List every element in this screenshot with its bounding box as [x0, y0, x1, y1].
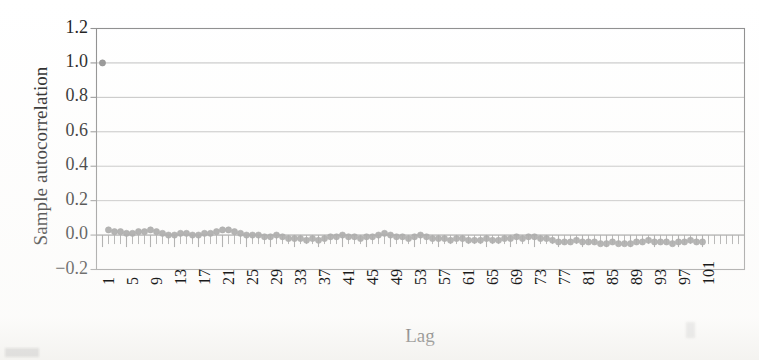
x-axis-title: Lag — [96, 325, 744, 347]
data-point — [603, 241, 609, 247]
x-axis-tick-label: 69 — [508, 269, 526, 285]
x-axis-tick-label: 33 — [292, 269, 310, 285]
data-point — [531, 234, 537, 240]
data-point — [345, 234, 351, 240]
data-point — [333, 234, 339, 240]
data-point — [201, 230, 207, 236]
data-point — [681, 239, 687, 245]
x-axis-tick-label: 73 — [532, 269, 550, 285]
data-point — [225, 227, 231, 233]
data-point — [309, 235, 315, 241]
data-point — [573, 237, 579, 243]
x-axis-tick-label: 41 — [340, 269, 358, 285]
data-point — [303, 237, 309, 243]
data-point — [213, 229, 219, 235]
data-point — [495, 237, 501, 243]
data-point — [615, 241, 621, 247]
data-point — [249, 232, 255, 238]
data-point — [645, 237, 651, 243]
data-point — [411, 234, 417, 240]
data-point — [255, 232, 261, 238]
x-axis-tick-label: 97 — [676, 269, 694, 285]
data-point — [153, 229, 159, 235]
data-point — [501, 235, 507, 241]
data-point — [375, 232, 381, 238]
data-point — [99, 60, 105, 66]
data-point — [207, 230, 213, 236]
x-axis-tick-label: 57 — [436, 269, 454, 285]
data-point — [195, 232, 201, 238]
data-point — [561, 239, 567, 245]
data-point — [627, 241, 633, 247]
data-point — [525, 234, 531, 240]
x-axis-tick-label: 17 — [196, 269, 214, 285]
data-point — [675, 239, 681, 245]
y-axis-tick-label: 0.0 — [66, 223, 89, 244]
y-axis-tick-label: 0.2 — [66, 189, 89, 210]
data-point — [435, 235, 441, 241]
x-axis-tick-label: 5 — [124, 277, 142, 285]
x-axis-tick-label: 21 — [220, 269, 238, 285]
data-point — [633, 239, 639, 245]
data-point — [609, 239, 615, 245]
data-point — [507, 235, 513, 241]
data-point — [387, 232, 393, 238]
data-point — [405, 235, 411, 241]
y-axis-tick-label: 0.8 — [66, 85, 89, 106]
data-point — [261, 234, 267, 240]
scan-artifact-left — [5, 348, 39, 357]
data-point — [459, 235, 465, 241]
data-point — [579, 239, 585, 245]
data-point — [657, 239, 663, 245]
x-axis-tick-label: 25 — [244, 269, 262, 285]
x-axis-tick-label: 49 — [388, 269, 406, 285]
x-axis-tick-label: 65 — [484, 269, 502, 285]
data-point — [519, 235, 525, 241]
data-point — [189, 232, 195, 238]
data-point — [315, 237, 321, 243]
x-axis-tick-label: 29 — [268, 269, 286, 285]
data-point — [159, 230, 165, 236]
data-point — [471, 237, 477, 243]
data-point — [477, 237, 483, 243]
y-axis-tick-label: 1.0 — [66, 51, 89, 72]
x-axis-tick-label: 89 — [628, 269, 646, 285]
data-point — [441, 235, 447, 241]
data-point — [567, 239, 573, 245]
data-point — [129, 230, 135, 236]
data-point — [135, 229, 141, 235]
data-point — [279, 234, 285, 240]
x-axis-tick-label: 37 — [316, 269, 334, 285]
data-point — [237, 230, 243, 236]
data-point — [453, 235, 459, 241]
data-point — [117, 229, 123, 235]
data-point — [597, 241, 603, 247]
data-point — [651, 239, 657, 245]
data-point — [549, 237, 555, 243]
data-point — [381, 230, 387, 236]
data-point — [291, 235, 297, 241]
x-axis-tick-label: 101 — [700, 261, 718, 285]
y-axis-title: Sample autocorrelation — [30, 21, 52, 291]
data-point — [687, 237, 693, 243]
data-point — [591, 239, 597, 245]
data-point — [171, 232, 177, 238]
data-point — [243, 232, 249, 238]
data-point — [147, 227, 153, 233]
data-point — [693, 239, 699, 245]
x-axis-tick-label: 9 — [148, 277, 166, 285]
data-point — [267, 234, 273, 240]
data-point — [399, 234, 405, 240]
data-point — [351, 234, 357, 240]
scan-artifact-right — [686, 322, 695, 338]
data-point — [321, 235, 327, 241]
data-point — [141, 229, 147, 235]
data-point — [513, 234, 519, 240]
x-axis-tick-label: 1 — [100, 277, 118, 285]
data-point — [669, 241, 675, 247]
x-axis-tick-label: 45 — [364, 269, 382, 285]
data-point — [327, 234, 333, 240]
x-axis-tick-label: 85 — [604, 269, 622, 285]
x-axis-tick-label: 81 — [580, 269, 598, 285]
data-point — [489, 237, 495, 243]
